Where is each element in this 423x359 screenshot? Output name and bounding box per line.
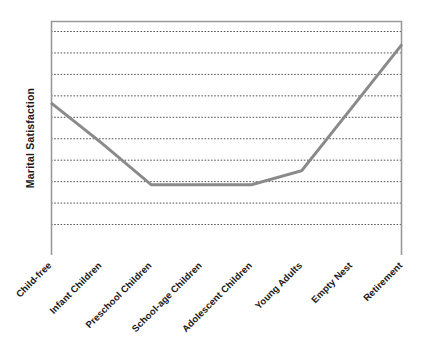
y-axis-label-group: Marital Satisfaction — [24, 88, 36, 188]
chart-canvas: Marital Satisfaction Child-freeInfant Ch… — [0, 0, 423, 359]
y-axis-label: Marital Satisfaction — [24, 88, 36, 188]
chart-figure: Marital Satisfaction Child-freeInfant Ch… — [0, 0, 423, 359]
